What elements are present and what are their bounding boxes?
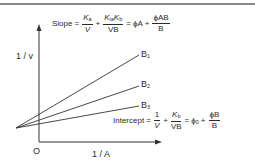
slope-term1: Ka V: [82, 14, 92, 34]
intercept-equation: Intercept= 1 V + Kb VB = ϕ0 + ϕB B: [113, 111, 221, 131]
slope-rhs1: ϕA: [133, 20, 143, 28]
y-axis-label: 1 / v: [16, 52, 33, 61]
x-axis-label: 1 / A: [92, 150, 110, 159]
slope-label: Slope: [52, 20, 72, 28]
intercept-rhs1: ϕ0: [191, 117, 199, 126]
slope-equation: Slope= Ka V + KiaKb VB = ϕA + ϕAB B: [52, 14, 171, 34]
origin-label: O: [33, 147, 40, 156]
slope-term2: KiaKb VB: [103, 14, 123, 34]
line-label-b1: B1: [141, 50, 150, 60]
y-axis-arrow-icon: [37, 24, 42, 31]
intercept-label: Intercept: [113, 117, 144, 125]
line-label-b3: B3: [141, 101, 150, 111]
x-axis-arrow-icon: [155, 140, 162, 145]
intercept-term2: Kb VB: [171, 111, 182, 131]
intercept-rhs2: ϕB B: [209, 111, 221, 130]
line-label-b2: B2: [141, 80, 150, 90]
slope-rhs2: ϕAB B: [152, 14, 169, 33]
intercept-term1: 1 V: [154, 111, 160, 130]
